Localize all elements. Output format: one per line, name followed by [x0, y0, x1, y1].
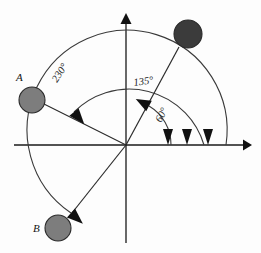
arc-230-degrees [27, 30, 227, 213]
label-angle-60: 60° [153, 105, 170, 124]
figure-root: A B 230° 135° 60° [0, 0, 261, 253]
label-point-b: B [33, 222, 40, 234]
axes-group [14, 13, 252, 243]
ball-a[interactable] [19, 87, 45, 113]
label-angle-230: 230° [49, 61, 70, 84]
ray-to-ball-b [68, 145, 126, 218]
terminal-arrow-3-icon [203, 129, 213, 145]
x-axis-arrowhead-icon [243, 140, 252, 151]
objects-group [19, 20, 202, 241]
label-point-a: A [15, 71, 23, 83]
terminal-arrow-2-icon [182, 129, 192, 145]
y-axis-arrowhead-icon [121, 13, 132, 24]
arc-arrowheads-group [67, 94, 152, 229]
label-angle-135: 135° [133, 74, 155, 88]
ball-b[interactable] [45, 215, 71, 241]
arc-60-arrowhead-icon [133, 94, 152, 112]
arcs-group [27, 30, 227, 213]
ball-dark[interactable] [174, 20, 202, 48]
ray-to-ball-a [44, 104, 126, 145]
rotation-angle-diagram: A B 230° 135° 60° [0, 0, 261, 253]
